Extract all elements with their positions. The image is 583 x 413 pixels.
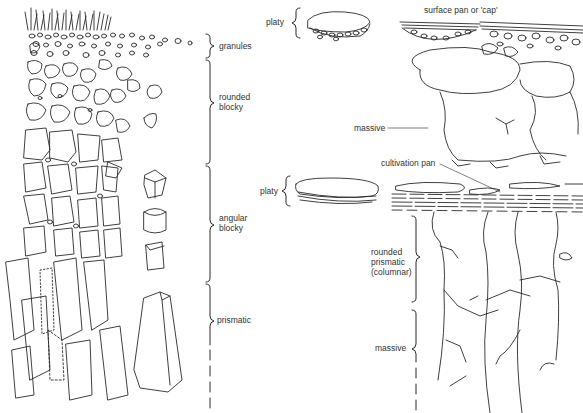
left-braces xyxy=(206,34,214,408)
angular-blocky-samples xyxy=(144,170,166,270)
right-braces-lower xyxy=(412,216,420,410)
label-platy-mid: platy xyxy=(260,186,278,196)
label-rounded-blocky-line1: rounded xyxy=(219,92,250,102)
grass-tufts xyxy=(25,8,111,30)
label-platy-top: platy xyxy=(266,17,284,27)
granules-layer xyxy=(29,33,192,70)
label-massive-top: massive xyxy=(354,123,385,133)
label-massive-bottom: massive xyxy=(375,343,406,353)
label-rounded-prismatic-line1: rounded xyxy=(371,247,412,257)
right-brace-platy-top xyxy=(292,8,300,38)
label-angular-blocky-line2: blocky xyxy=(219,223,247,233)
angular-blocky-layer xyxy=(24,128,122,258)
rounded-prismatic-layer xyxy=(432,212,572,413)
label-prismatic: prismatic xyxy=(217,315,251,325)
label-rounded-prismatic-line2: prismatic xyxy=(371,257,412,267)
surface-pan-layer xyxy=(400,22,583,57)
label-granules: granules xyxy=(219,41,252,51)
label-surface-pan: surface pan or 'cap' xyxy=(424,5,498,15)
platy-top-sample xyxy=(308,12,370,41)
label-rounded-blocky: rounded blocky xyxy=(219,92,250,112)
label-rounded-prismatic: rounded prismatic (columnar) xyxy=(371,247,412,277)
right-brace-platy-mid xyxy=(282,176,290,206)
label-cultivation-pan: cultivation pan xyxy=(381,158,435,168)
label-rounded-blocky-line2: blocky xyxy=(219,102,250,112)
label-angular-blocky: angular blocky xyxy=(219,213,247,233)
cultivation-pan-layer xyxy=(392,182,583,212)
rounded-blocky-layer xyxy=(26,60,162,132)
soil-structure-diagram xyxy=(0,0,583,413)
platy-mid-sample xyxy=(296,178,379,204)
massive-top-layer xyxy=(412,47,578,168)
label-angular-blocky-line1: angular xyxy=(219,213,247,223)
label-rounded-prismatic-line3: (columnar) xyxy=(371,267,412,277)
prismatic-layer xyxy=(6,258,182,400)
